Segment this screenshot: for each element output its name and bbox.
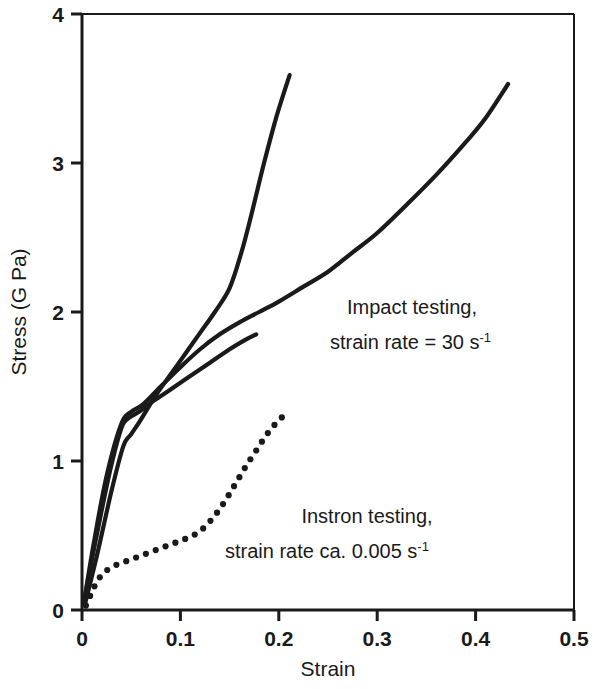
y-tick-label: 0 [52, 599, 64, 622]
data-point-dot [231, 483, 237, 489]
y-axis-tick-labels: 01234 [52, 3, 64, 622]
data-series-line [85, 75, 290, 604]
data-point-dot [265, 430, 271, 436]
data-point-dot [236, 474, 242, 480]
annotation-instron-line1: Instron testing, [301, 505, 432, 527]
annotation-impact-testing: Impact testing, strain rate = 30 s-1 [330, 296, 491, 353]
data-point-dot [113, 562, 119, 568]
data-point-dot [259, 439, 265, 445]
data-point-dot [97, 574, 103, 580]
data-point-dot [83, 602, 89, 608]
data-point-dot [172, 540, 178, 546]
x-axis-tick-labels: 00.10.20.30.40.5 [76, 627, 589, 650]
data-point-dot [226, 492, 232, 498]
data-point-dot [133, 554, 139, 560]
data-point-dot [143, 551, 149, 557]
stress-strain-chart-figure: 01234 00.10.20.30.40.5 Strain Stress (G … [0, 0, 607, 689]
data-point-dot [279, 414, 285, 420]
data-point-dot [200, 525, 206, 531]
annotation-impact-line2-superscript: -1 [480, 330, 492, 345]
x-tick-label: 0.5 [559, 627, 589, 650]
data-point-dot [153, 547, 159, 553]
x-tick-label: 0 [76, 627, 88, 650]
y-axis-title: Stress (G Pa) [7, 248, 30, 375]
data-point-dot [123, 558, 129, 564]
annotation-instron-line2: strain rate ca. 0.005 s-1 [225, 539, 429, 562]
x-tick-label: 0.4 [461, 627, 491, 650]
data-point-dot [247, 456, 253, 462]
data-point-dot [214, 510, 220, 516]
data-point-dot [242, 465, 248, 471]
y-tick-label: 4 [52, 3, 64, 26]
data-point-dot [207, 518, 213, 524]
x-axis-ticks [82, 610, 574, 621]
data-point-dot [162, 543, 168, 549]
y-tick-label: 3 [52, 152, 64, 175]
data-point-dot [192, 531, 198, 537]
chart-canvas: 01234 00.10.20.30.40.5 Strain Stress (G … [0, 0, 607, 689]
x-axis-title: Strain [301, 657, 356, 680]
data-point-dot [271, 422, 277, 428]
annotation-impact-line2-text: strain rate = 30 s [330, 331, 480, 353]
x-tick-label: 0.1 [166, 627, 196, 650]
y-axis-ticks [71, 14, 82, 610]
y-tick-label: 1 [52, 450, 64, 473]
y-tick-label: 2 [52, 301, 64, 324]
annotation-impact-line1: Impact testing, [347, 296, 477, 318]
data-point-dot [182, 536, 188, 542]
x-tick-label: 0.3 [363, 627, 392, 650]
data-point-dot [87, 593, 93, 599]
annotation-instron-line2-superscript: -1 [417, 539, 429, 554]
annotation-instron-line2-text: strain rate ca. 0.005 s [225, 540, 417, 562]
data-point-dot [91, 583, 97, 589]
data-point-dot [220, 501, 226, 507]
x-tick-label: 0.2 [264, 627, 293, 650]
annotation-impact-line2: strain rate = 30 s-1 [330, 330, 491, 353]
annotation-instron-testing: Instron testing, strain rate ca. 0.005 s… [225, 505, 433, 562]
data-point-dot [253, 447, 259, 453]
data-point-dot [104, 567, 110, 573]
